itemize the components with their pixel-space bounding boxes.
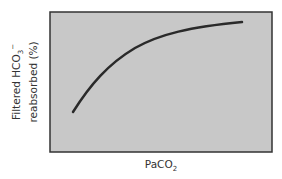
y-axis-label: Filtered HCO3− reabsorbed (%) xyxy=(7,41,39,122)
y-label-main: Filtered HCO xyxy=(10,54,22,120)
y-label-sub: 3 xyxy=(17,50,25,54)
x-label-sub: 2 xyxy=(173,165,177,173)
y-label-sup: − xyxy=(9,44,17,50)
plot-area xyxy=(50,12,272,152)
x-axis-label: PaCO2 xyxy=(145,158,177,173)
y-label-line2: reabsorbed (%) xyxy=(27,41,39,122)
x-label-main: PaCO xyxy=(145,158,173,170)
chart xyxy=(0,0,282,179)
